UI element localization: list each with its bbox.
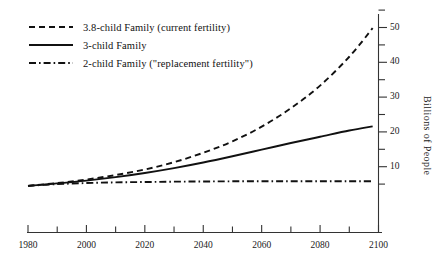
legend-item-3-8-child: 3.8-child Family (current fertility) — [28, 18, 253, 36]
legend-item-2-child: 2-child Family ("replacement fertility") — [28, 54, 253, 72]
y-tick-label: 10 — [390, 161, 400, 171]
y-tick-label: 20 — [390, 126, 400, 136]
legend-label-2-child: 2-child Family ("replacement fertility") — [83, 58, 253, 69]
x-axis-ticks — [28, 225, 379, 233]
series-line-3-child — [28, 126, 373, 186]
legend-key-dash-dot-icon — [28, 57, 74, 69]
legend-key-dashed-icon — [28, 21, 74, 33]
chart-legend: 3.8-child Family (current fertility) 3-c… — [28, 18, 253, 72]
y-axis-title: Billions of People — [422, 96, 433, 175]
x-tick-label: 2040 — [183, 240, 223, 250]
population-projection-chart: 3.8-child Family (current fertility) 3-c… — [0, 0, 435, 264]
legend-item-3-child: 3-child Family — [28, 36, 253, 54]
x-tick-label: 1980 — [8, 240, 48, 250]
legend-label-3-8-child: 3.8-child Family (current fertility) — [83, 22, 230, 33]
x-tick-label: 2060 — [242, 240, 282, 250]
y-tick-label: 50 — [390, 22, 400, 32]
y-tick-label: 40 — [390, 56, 400, 66]
x-tick-label: 2080 — [300, 240, 340, 250]
y-axis-ticks — [379, 10, 388, 184]
x-tick-label: 2020 — [125, 240, 165, 250]
legend-key-solid-icon — [28, 39, 74, 51]
x-tick-label: 2000 — [66, 240, 106, 250]
legend-label-3-child: 3-child Family — [83, 40, 147, 51]
y-tick-label: 30 — [390, 91, 400, 101]
x-tick-label: 2100 — [359, 240, 399, 250]
